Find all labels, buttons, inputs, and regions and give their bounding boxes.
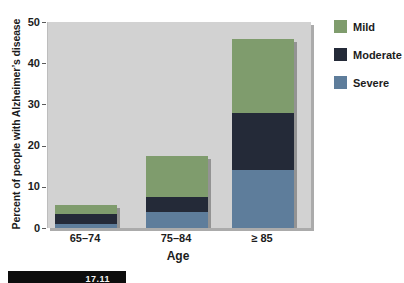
y-tick-label-50: 50 <box>6 16 40 29</box>
y-tick-label-40: 40 <box>6 57 40 70</box>
y-tick-label-0: 0 <box>6 222 40 235</box>
legend-item-severe: Severe <box>334 76 389 89</box>
x-tick-label-75-84: 75–84 <box>141 232 211 244</box>
bar-segment-mild-65-74 <box>55 205 117 213</box>
y-tick-label-20: 20 <box>6 139 40 152</box>
y-tick-mark-50 <box>42 22 46 23</box>
legend-label-mild: Mild <box>353 21 375 33</box>
bar-segment-moderate-75-84 <box>146 197 208 211</box>
bar-75-84 <box>146 156 208 228</box>
legend-item-mild: Mild <box>334 20 375 33</box>
plot-area <box>47 22 311 228</box>
bar-segment-severe-65-74 <box>55 224 117 228</box>
y-tick-mark-20 <box>42 146 46 147</box>
x-tick-label-85: ≥ 85 <box>227 232 297 244</box>
legend-swatch-severe <box>334 76 347 89</box>
y-tick-label-30: 30 <box>6 98 40 111</box>
y-axis-title: Percent of people with Alzheimer’s disea… <box>10 14 22 234</box>
x-tick-label-65-74: 65–74 <box>50 232 120 244</box>
legend-swatch-moderate <box>334 48 347 61</box>
bar-segment-mild-85 <box>232 39 294 113</box>
legend-label-moderate: Moderate <box>353 49 402 61</box>
bar-segment-moderate-65-74 <box>55 214 117 224</box>
figure-label: 17.11 <box>8 274 126 283</box>
legend-swatch-mild <box>334 20 347 33</box>
y-tick-label-10: 10 <box>6 180 40 193</box>
bar-segment-severe-85 <box>232 170 294 228</box>
legend-label-severe: Severe <box>353 77 389 89</box>
x-axis-title: Age <box>148 249 208 263</box>
bar-segment-severe-75-84 <box>146 212 208 228</box>
bar-65-74 <box>55 205 117 228</box>
bar-85 <box>232 39 294 229</box>
bar-segment-moderate-85 <box>232 113 294 171</box>
legend-item-moderate: Moderate <box>334 48 402 61</box>
y-tick-mark-0 <box>42 228 46 229</box>
y-tick-mark-40 <box>42 63 46 64</box>
bar-segment-mild-75-84 <box>146 156 208 197</box>
figure-label-box: 17.11 <box>8 271 126 283</box>
y-tick-mark-30 <box>42 104 46 105</box>
y-tick-mark-10 <box>42 187 46 188</box>
